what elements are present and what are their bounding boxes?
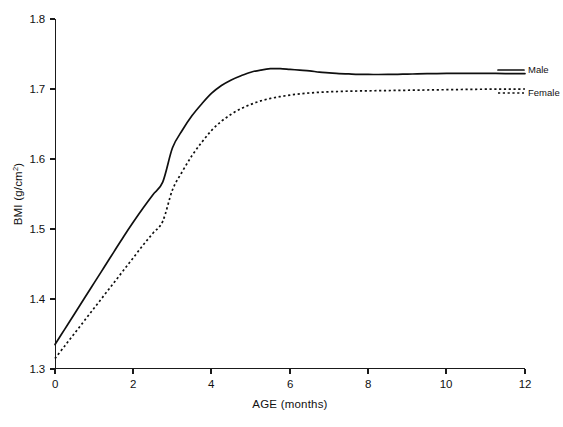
y-tick-label-3: 1.6 xyxy=(30,153,45,165)
y-tick-label-5: 1.8 xyxy=(30,13,45,25)
y-tick-label-2: 1.5 xyxy=(30,223,45,235)
x-tick-label-1: 2 xyxy=(130,378,136,390)
chart-canvas: 1.8 1.7 1.6 1.5 1.4 1.3 0 2 4 6 8 10 12 … xyxy=(0,0,563,427)
chart-legend: Male Female xyxy=(498,64,560,98)
x-axis-ticks xyxy=(55,369,525,374)
x-axis-tick-labels: 0 2 4 6 8 10 12 xyxy=(52,378,531,390)
x-axis-title: AGE (months) xyxy=(252,398,327,410)
legend-label-female: Female xyxy=(528,87,560,98)
series-line-female xyxy=(55,89,525,359)
y-tick-label-0: 1.3 xyxy=(30,363,45,375)
y-axis-title-tail: ) xyxy=(12,163,24,167)
legend-label-male: Male xyxy=(528,64,549,75)
y-tick-label-4: 1.7 xyxy=(30,83,45,95)
y-axis-ticks xyxy=(50,19,55,369)
y-tick-label-1: 1.4 xyxy=(30,293,46,305)
bmi-growth-chart-figure: 1.8 1.7 1.6 1.5 1.4 1.3 0 2 4 6 8 10 12 … xyxy=(0,0,563,427)
x-tick-label-5: 10 xyxy=(440,378,452,390)
y-axis-title-main: BMI (g/cm xyxy=(12,171,24,225)
x-tick-label-4: 8 xyxy=(365,378,371,390)
x-tick-label-0: 0 xyxy=(52,378,58,390)
y-axis-title: BMI (g/cm2) xyxy=(11,163,24,226)
x-tick-label-6: 12 xyxy=(519,378,531,390)
x-tick-label-3: 6 xyxy=(287,378,293,390)
y-axis-title-group: BMI (g/cm2) xyxy=(11,163,24,226)
y-axis-tick-labels: 1.8 1.7 1.6 1.5 1.4 1.3 xyxy=(30,13,46,375)
x-tick-label-2: 4 xyxy=(208,378,215,390)
series-line-male xyxy=(55,69,525,345)
